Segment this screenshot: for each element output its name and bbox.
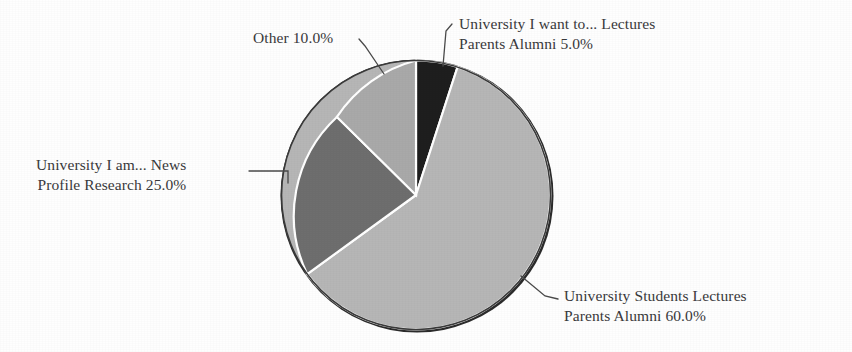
pie-label-university-i-am: University I am... News Profile Research… [36,155,186,195]
pie-label-university-students-line1: University Students Lectures [564,286,747,306]
pie-chart-figure: Other 10.0% University I want to... Lect… [0,0,852,352]
pie-label-other-line1: Other 10.0% [253,28,333,48]
pie-label-university-students: University Students Lectures Parents Alu… [564,286,747,326]
pie-label-university-students-line2: Parents Alumni 60.0% [564,306,747,326]
pie-label-university-i-am-line2: Profile Research 25.0% [36,175,186,195]
pie-label-university-i-want-to: University I want to... Lectures Parents… [459,14,655,54]
pie-label-university-i-want-to-line1: University I want to... Lectures [459,14,655,34]
pie-label-university-i-want-to-line2: Parents Alumni 5.0% [459,34,655,54]
leader-line-university-students [521,276,558,299]
pie-label-university-i-am-line1: University I am... News [36,155,186,175]
leader-line-university-i-want-to [443,24,452,66]
pie-label-other: Other 10.0% [253,28,333,48]
